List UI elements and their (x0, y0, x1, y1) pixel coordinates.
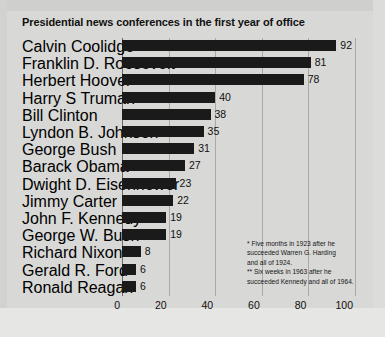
bar-value-label: 19 (170, 228, 182, 240)
footnote-line: and all of 1924. (247, 258, 379, 267)
bar-row: Lyndon B. Johnson**35 (0, 124, 385, 141)
bar (122, 57, 311, 68)
bar-row: Herbert Hoover78 (0, 72, 385, 89)
bar (122, 246, 141, 257)
bar-category-label: Ronald Reagan (22, 279, 133, 297)
bar (122, 40, 336, 51)
bar (122, 126, 204, 137)
bar-value-label: 40 (219, 91, 231, 103)
bar-value-label: 23 (180, 177, 192, 189)
bar (122, 281, 136, 292)
bar-category-label: Herbert Hoover (22, 72, 131, 90)
bar-category-label: Jimmy Carter (22, 193, 117, 211)
x-tick-60: 60 (248, 299, 263, 311)
bar-value-label: 78 (308, 73, 320, 85)
x-axis-tick-labels: 020406080100 (0, 299, 385, 315)
footnote-line: succeeded Warren G. Harding (247, 248, 379, 257)
bar-value-label: 6 (140, 280, 146, 292)
bar-category-label: Barack Obama (22, 158, 129, 176)
chart-figure: Presidential news conferences in the fir… (0, 0, 385, 337)
bar-row: Barack Obama27 (0, 158, 385, 175)
bar (122, 143, 194, 154)
bar (122, 74, 304, 85)
x-tick-100: 100 (335, 299, 356, 311)
bar-category-label: George Bush (22, 141, 116, 159)
bar-row: Dwight D. Eisenhower23 (0, 176, 385, 193)
bar-value-label: 35 (208, 125, 220, 137)
bar-value-label: 22 (177, 194, 189, 206)
bar-row: Bill Clinton38 (0, 107, 385, 124)
bar-category-label: Richard Nixon (22, 244, 122, 262)
chart-footnotes: * Five months in 1923 after hesucceeded … (247, 239, 379, 286)
bar-row: Jimmy Carter22 (0, 193, 385, 210)
bar-row: Franklin D. Roosevelt81 (0, 55, 385, 72)
bar (122, 109, 211, 120)
bar-category-label: Gerald R. Ford (22, 262, 128, 280)
bar-value-label: 19 (170, 211, 182, 223)
bar-value-label: 38 (215, 108, 227, 120)
bar-category-label: Harry S Truman (22, 90, 135, 108)
bar (122, 212, 166, 223)
x-tick-80: 80 (295, 299, 310, 311)
bar-value-label: 81 (315, 56, 327, 68)
bar-value-label: 31 (198, 142, 210, 154)
bar (122, 178, 176, 189)
bar (122, 229, 166, 240)
chart-title: Presidential news conferences in the fir… (22, 16, 305, 28)
bar-value-label: 92 (340, 39, 352, 51)
bar (122, 195, 173, 206)
scan-edge-top (0, 0, 385, 11)
bar-value-label: 27 (189, 159, 201, 171)
bar (122, 160, 185, 171)
bar-row: George Bush31 (0, 141, 385, 158)
footnote-line: succeeded Kennedy and all of 1964. (247, 277, 379, 286)
bar-row: Harry S Truman40 (0, 90, 385, 107)
bar-category-label: Bill Clinton (22, 107, 98, 125)
bar-value-label: 8 (145, 245, 151, 257)
bar-row: Calvin Coolidge*92 (0, 38, 385, 55)
bar (122, 92, 215, 103)
footnote-line: ** Six weeks in 1963 after he (247, 267, 379, 276)
bar (122, 264, 136, 275)
footnote-line: * Five months in 1923 after he (247, 239, 379, 248)
x-tick-0: 0 (114, 299, 123, 311)
bar-value-label: 6 (140, 263, 146, 275)
bar-row: John F. Kennedy19 (0, 210, 385, 227)
x-tick-40: 40 (202, 299, 217, 311)
x-tick-20: 20 (155, 299, 170, 311)
